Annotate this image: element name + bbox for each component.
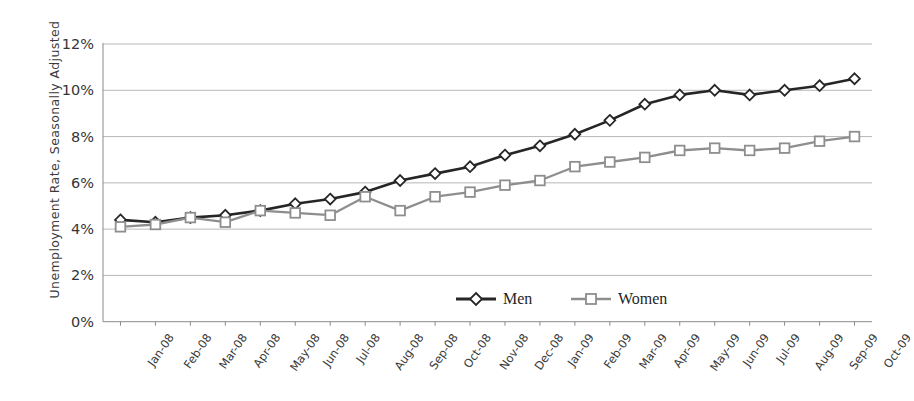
x-tick-label: Mar-08 <box>216 331 250 372</box>
x-tick-label: May-09 <box>707 331 743 374</box>
x-tick-label: Jan-08 <box>145 331 177 369</box>
x-tick-label: Apr-08 <box>251 331 284 370</box>
x-tick-label: Jun-08 <box>320 331 353 369</box>
x-tick-label: Sep-08 <box>426 331 461 372</box>
x-tick-label: Sep-09 <box>846 331 881 372</box>
x-tick-label: Mar-09 <box>636 331 670 372</box>
x-tick-label: Aug-08 <box>392 331 427 373</box>
x-tick-label: Oct-09 <box>880 331 914 371</box>
x-tick-label: Jul-08 <box>353 331 383 366</box>
x-tick-label: Apr-09 <box>670 331 703 370</box>
x-tick-label: Aug-09 <box>811 331 846 373</box>
x-tick-label: Feb-09 <box>601 331 635 371</box>
x-tick-label: Oct-08 <box>461 331 495 371</box>
x-tick-label: Dec-08 <box>531 331 566 373</box>
x-tick-label: Jan-09 <box>564 331 596 369</box>
x-tick-label: Nov-08 <box>496 331 531 373</box>
x-tick-label: Jul-09 <box>773 331 803 366</box>
x-tick-label: Feb-08 <box>181 331 215 371</box>
x-tick-label: Jun-09 <box>739 331 772 369</box>
x-tick-label: May-08 <box>287 331 323 374</box>
